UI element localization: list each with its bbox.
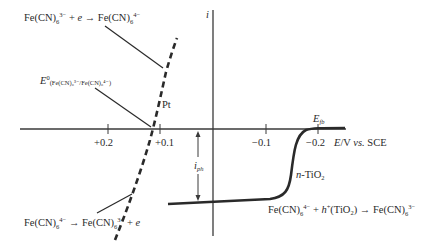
leader-reduction: [105, 26, 163, 68]
tick-label-minus-0-2: −0.2: [306, 137, 325, 148]
tio2-curve-label: n-TiO2: [296, 169, 325, 181]
tick-label-plus-0-2: +0.2: [94, 137, 113, 148]
current-potential-diagram: +0.2 +0.1 −0.1 −0.2 i E/V vs. SCE Efb Pt…: [0, 0, 423, 246]
y-axis-label: i: [206, 9, 209, 20]
oxidation-pt-equation: Fe(CN)64− → Fe(CN)63− + e: [24, 216, 140, 230]
x-axis-label: E/V vs. SCE: [333, 137, 387, 148]
flatband-potential-label: Efb: [312, 113, 325, 125]
leader-standard-potential: [95, 88, 151, 127]
tick-label-plus-0-1: +0.1: [155, 137, 174, 148]
photocurrent-label: iph: [194, 160, 203, 172]
pt-curve-label: Pt: [162, 99, 171, 110]
tick-label-minus-0-1: −0.1: [252, 137, 271, 148]
reduction-equation: Fe(CN)63− + e → Fe(CN)64−: [24, 11, 140, 25]
standard-potential-label: E0(Fe(CN)₆³⁻/Fe(CN)₆⁴⁻): [39, 74, 111, 87]
oxidation-tio2-equation: Fe(CN)64− + h+(TiO2) → Fe(CN)63−: [268, 203, 416, 217]
